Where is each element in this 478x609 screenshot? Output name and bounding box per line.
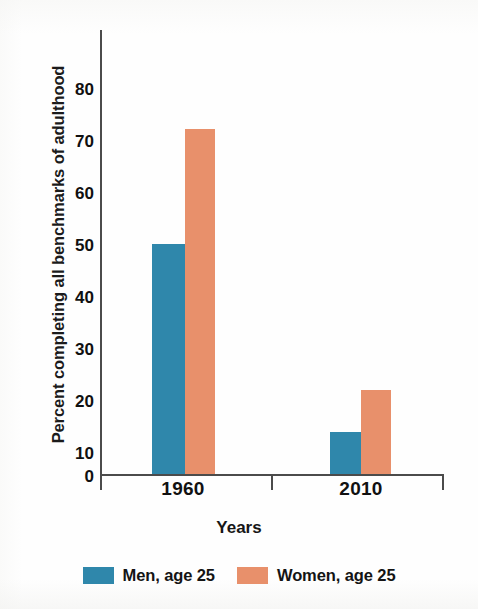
legend-label-women: Women, age 25 [277,566,396,585]
legend-label-men: Men, age 25 [123,566,215,585]
bar-women-1960 [185,129,215,474]
legend-entry-women: Women, age 25 [237,566,396,585]
x-axis-tick-start [100,474,102,490]
x-category-label-2010: 2010 [316,478,406,500]
legend-entry-men: Men, age 25 [83,566,215,585]
bar-men-1960 [152,244,185,474]
y-tick-label: 40 [54,289,94,306]
bar-men-2010 [330,432,361,474]
y-tick-label: 50 [54,237,94,254]
y-tick-label: 80 [54,81,94,98]
y-axis-tick-labels: 80 70 60 50 40 30 20 10 0 [52,30,94,476]
y-tick-label: 70 [54,133,94,150]
y-tick-label: 60 [54,185,94,202]
women-color-swatch-icon [237,567,268,584]
bar-chart-figure: Percent completing all benchmarks of adu… [0,0,478,609]
y-tick-label: 20 [54,393,94,410]
men-color-swatch-icon [83,567,114,584]
x-axis-tick-end [442,474,444,490]
y-tick-label: 30 [54,341,94,358]
plot-area [100,30,444,476]
chart-legend: Men, age 25 Women, age 25 [0,566,478,585]
y-tick-label: 0 [54,468,94,485]
bar-women-2010 [361,390,391,474]
x-category-label-1960: 1960 [138,478,228,500]
x-axis-title: Years [0,518,478,538]
y-tick-label: 10 [54,445,94,462]
x-axis-tick-middle [271,474,273,490]
bars-layer [102,30,444,474]
